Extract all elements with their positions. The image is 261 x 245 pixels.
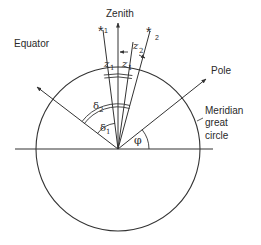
equator-label: Equator (14, 38, 50, 49)
equator-line (37, 87, 118, 149)
celestial-diagram: Zenith Equator Pole Meridian great circl… (0, 0, 261, 245)
z1-right-label: z (121, 58, 128, 69)
delta2-sub: 2 (99, 106, 103, 114)
star1-sub: 1 (104, 27, 108, 34)
star2-icon: * (146, 24, 152, 40)
meridian-label-2: great (205, 117, 228, 128)
pole-line (118, 79, 206, 149)
delta1-sub: 1 (106, 128, 110, 136)
z1-left-label: z (103, 58, 110, 69)
meridian-pointer (197, 118, 203, 121)
z1-right-sub: 1 (128, 64, 132, 72)
meridian-label-3: circle (205, 130, 229, 141)
z1-left-sub: 1 (110, 64, 114, 72)
z2-label: z (132, 40, 139, 51)
z2-sub: 2 (139, 47, 143, 55)
pole-label: Pole (211, 65, 231, 76)
zenith-label: Zenith (106, 8, 134, 19)
z2-arrow-right (139, 55, 145, 58)
star2-sub: 2 (155, 34, 159, 41)
phi-arc (142, 130, 149, 149)
meridian-label-1: Meridian (205, 105, 243, 116)
phi-label: φ (134, 134, 142, 147)
